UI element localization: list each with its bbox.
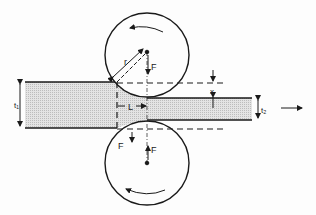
exit-thickness-label: t₂ [261,106,266,115]
draft-label: x [210,87,214,96]
diagram-canvas: r F F F L t₁ t₂ x [0,0,316,215]
rolling-diagram: r F F F L t₁ t₂ x [0,0,316,215]
entry-thickness-label: t₁ [14,101,19,110]
contact-length-label: L [128,102,133,112]
top-force-label: F [151,62,157,72]
radius-label: r [124,57,127,67]
bottom-left-force-label: F [118,141,124,151]
bottom-force-label: F [151,145,157,155]
